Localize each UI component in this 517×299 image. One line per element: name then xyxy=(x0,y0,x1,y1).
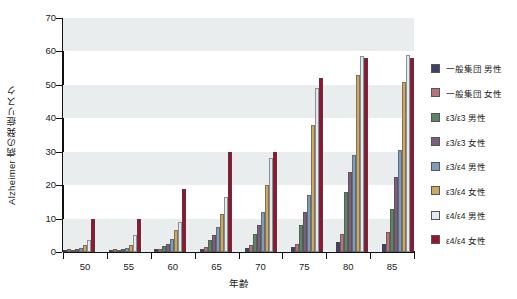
x-axis-tick xyxy=(370,253,371,259)
legend-label: ε3/ε4 女性 xyxy=(446,185,486,197)
x-axis-tick xyxy=(151,253,152,259)
alzheimer-risk-bar-chart: Alzheimer 病の発症リスク 010203040506070 505560… xyxy=(0,0,517,299)
y-axis-tick xyxy=(56,252,62,253)
x-axis-tick xyxy=(195,253,196,259)
legend-item[interactable]: ε4/ε4 女性 xyxy=(431,228,517,253)
x-axis-tick xyxy=(326,253,327,259)
bar xyxy=(273,152,277,252)
bar xyxy=(137,219,141,252)
y-axis-tick-label: 70 xyxy=(28,12,56,23)
y-axis-tick-label: 20 xyxy=(28,179,56,190)
x-axis-tick xyxy=(107,253,108,259)
bar-group xyxy=(336,18,368,252)
bar-group xyxy=(109,18,141,252)
plot-area xyxy=(63,18,414,252)
bar xyxy=(91,219,95,252)
bar-groups xyxy=(63,18,414,252)
legend-item[interactable]: ε3/ε4 男性 xyxy=(431,154,517,179)
legend-label: ε4/ε4 女性 xyxy=(446,234,486,246)
legend-swatch xyxy=(431,211,440,220)
bar xyxy=(228,152,232,252)
legend-item[interactable]: ε3/ε3 男性 xyxy=(431,105,517,130)
x-axis-tick-label: 55 xyxy=(109,261,149,272)
legend-label: ε3/ε3 男性 xyxy=(446,111,486,123)
bar-group xyxy=(200,18,232,252)
bar-group xyxy=(291,18,323,252)
x-axis-tick-label: 50 xyxy=(65,261,105,272)
legend-swatch xyxy=(431,88,440,97)
x-axis-tick-label: 75 xyxy=(284,261,324,272)
legend-item[interactable]: ε3/ε4 女性 xyxy=(431,179,517,204)
x-axis-tick xyxy=(414,253,415,259)
y-axis-tick-label: 0 xyxy=(28,246,56,257)
bar xyxy=(364,58,368,252)
legend-swatch xyxy=(431,137,440,146)
x-axis-tick xyxy=(63,253,64,259)
y-axis-tick-label: 10 xyxy=(28,213,56,224)
x-axis-tick-label: 60 xyxy=(153,261,193,272)
bar xyxy=(319,78,323,252)
x-axis-tick-label: 65 xyxy=(197,261,237,272)
legend-swatch xyxy=(431,113,440,122)
legend-swatch xyxy=(431,235,440,244)
y-axis-tick-label: 60 xyxy=(28,45,56,56)
x-axis-tick-label: 85 xyxy=(372,261,412,272)
x-axis-tick-label: 70 xyxy=(240,261,280,272)
y-axis-tick-label: 30 xyxy=(28,146,56,157)
x-axis-title: 年齢 xyxy=(63,276,415,290)
legend-label: ε4/ε4 男性 xyxy=(446,209,486,221)
legend-item[interactable]: 一般集団 女性 xyxy=(431,81,517,106)
bar-group xyxy=(245,18,277,252)
legend-item[interactable]: ε4/ε4 男性 xyxy=(431,203,517,228)
legend-label: 一般集団 男性 xyxy=(446,62,502,74)
legend-swatch xyxy=(431,162,440,171)
bar xyxy=(182,189,186,253)
y-axis-tick-label: 40 xyxy=(28,112,56,123)
legend-item[interactable]: ε3/ε3 女性 xyxy=(431,130,517,155)
legend-swatch xyxy=(431,186,440,195)
bar xyxy=(410,58,414,252)
legend-label: ε3/ε4 男性 xyxy=(446,160,486,172)
x-axis-tick xyxy=(282,253,283,259)
bar-group xyxy=(154,18,186,252)
legend: 一般集団 男性一般集団 女性ε3/ε3 男性ε3/ε3 女性ε3/ε4 男性ε3… xyxy=(431,56,517,252)
y-axis-tick-label: 50 xyxy=(28,79,56,90)
y-axis-title: Alzheimer 病の発症リスク xyxy=(3,50,21,240)
bar-group xyxy=(382,18,414,252)
legend-label: 一般集団 女性 xyxy=(446,87,502,99)
x-axis-tick-label: 80 xyxy=(328,261,368,272)
legend-swatch xyxy=(431,64,440,73)
legend-label: ε3/ε3 女性 xyxy=(446,136,486,148)
bar-group xyxy=(63,18,95,252)
x-axis-tick xyxy=(239,253,240,259)
legend-item[interactable]: 一般集団 男性 xyxy=(431,56,517,81)
